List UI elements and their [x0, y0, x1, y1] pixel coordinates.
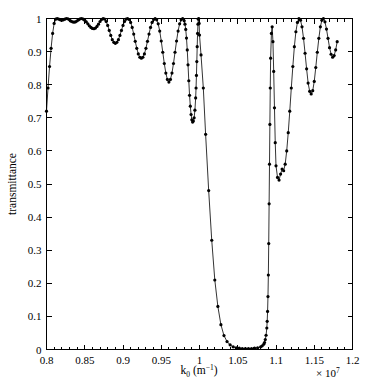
- data-point: [192, 120, 195, 123]
- data-point: [303, 52, 306, 55]
- data-point: [225, 340, 228, 343]
- data-point: [285, 149, 288, 152]
- x-axis-minor-ticks: [54, 19, 345, 350]
- data-point: [164, 72, 167, 75]
- data-point: [169, 78, 172, 81]
- data-series-group: [45, 17, 339, 350]
- data-point: [117, 38, 120, 41]
- data-point: [271, 40, 274, 43]
- data-point: [229, 343, 232, 346]
- x-axis-title: k0 (m−1): [181, 363, 218, 379]
- data-point: [216, 305, 219, 308]
- data-point: [328, 46, 331, 49]
- data-point: [282, 169, 285, 172]
- data-point: [137, 52, 140, 55]
- data-point: [314, 66, 317, 69]
- data-point: [319, 25, 322, 28]
- data-point: [157, 22, 160, 25]
- data-point: [299, 19, 302, 22]
- data-point: [265, 326, 268, 329]
- data-point: [244, 347, 247, 350]
- data-point: [325, 27, 328, 30]
- data-point: [132, 32, 135, 35]
- x-tick-label-2: 0.9: [116, 354, 130, 366]
- data-point: [305, 67, 308, 70]
- data-point: [253, 347, 256, 350]
- data-point: [46, 86, 49, 89]
- data-point: [48, 65, 51, 68]
- data-point: [195, 74, 198, 77]
- y-tick-label-7: 0.7: [28, 112, 42, 124]
- figure-container: 0.80.850.90.9511.051.11.151.2 00.10.20.3…: [0, 0, 370, 389]
- data-point: [189, 113, 192, 116]
- data-point: [183, 19, 186, 22]
- x-axis-unit-prefix: (m: [190, 364, 206, 377]
- data-point: [197, 17, 200, 20]
- data-point: [160, 39, 163, 42]
- data-point: [134, 40, 137, 43]
- data-point: [189, 105, 192, 108]
- data-point: [109, 34, 112, 37]
- data-point: [128, 18, 131, 21]
- data-point: [186, 48, 189, 51]
- x-tick-label-8: 1.2: [346, 354, 360, 366]
- data-point: [108, 29, 111, 32]
- data-point: [310, 92, 313, 95]
- y-tick-label-3: 0.3: [28, 244, 42, 256]
- data-point: [161, 51, 164, 54]
- transmittance-markers: [45, 17, 339, 350]
- data-point: [311, 89, 314, 92]
- x-tick-label-6: 1.1: [269, 354, 283, 366]
- data-point: [293, 45, 296, 48]
- x-axis-unit-suffix: ): [214, 364, 218, 377]
- data-point: [313, 80, 316, 83]
- y-axis-title: transmittance: [6, 153, 18, 215]
- data-point: [155, 18, 158, 21]
- data-point: [186, 63, 189, 66]
- data-point: [131, 26, 134, 29]
- data-point: [106, 24, 109, 27]
- data-point: [284, 163, 287, 166]
- data-point: [334, 48, 337, 51]
- data-point: [288, 110, 291, 113]
- data-point: [178, 22, 181, 25]
- data-point: [105, 20, 108, 23]
- data-point: [300, 25, 303, 28]
- data-point: [198, 33, 201, 36]
- data-point: [268, 163, 271, 166]
- data-point: [175, 39, 178, 42]
- data-point: [150, 21, 153, 24]
- y-tick-label-10: 1: [36, 13, 42, 25]
- data-point: [198, 22, 201, 25]
- data-point: [290, 86, 293, 89]
- data-point: [264, 334, 267, 337]
- data-point: [118, 34, 121, 37]
- data-point: [232, 345, 235, 348]
- data-point: [316, 51, 319, 54]
- data-point: [272, 70, 275, 73]
- data-point: [146, 40, 149, 43]
- data-point: [135, 47, 138, 50]
- y-tick-label-6: 0.6: [28, 145, 42, 157]
- x-tick-label-5: 1.05: [228, 354, 248, 366]
- exponent-power: 7: [336, 366, 340, 375]
- data-point: [238, 347, 241, 350]
- data-point: [323, 20, 326, 23]
- data-point: [333, 54, 336, 57]
- data-point: [250, 347, 253, 350]
- data-point: [222, 334, 225, 337]
- data-point: [271, 25, 274, 28]
- x-tick-label-1: 0.85: [75, 354, 95, 366]
- y-tick-label-1: 0.1: [28, 310, 42, 322]
- data-point: [235, 346, 238, 349]
- data-point: [266, 310, 269, 313]
- data-point: [183, 23, 186, 26]
- transmittance-plot: 0.80.850.90.9511.051.11.151.2 00.10.20.3…: [0, 0, 370, 389]
- data-point: [263, 341, 266, 344]
- data-point: [194, 96, 197, 99]
- data-point: [268, 123, 271, 126]
- data-point: [147, 32, 150, 35]
- data-point: [307, 81, 310, 84]
- y-tick-label-9: 0.9: [28, 46, 42, 58]
- data-point: [158, 29, 161, 32]
